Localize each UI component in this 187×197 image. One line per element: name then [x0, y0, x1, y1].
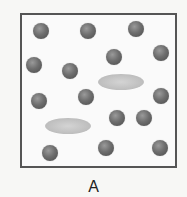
- particle-sphere: [136, 110, 152, 126]
- particle-sphere: [109, 110, 125, 126]
- particle-sphere: [106, 49, 122, 65]
- diagram-label: A: [0, 178, 187, 196]
- particle-sphere: [42, 145, 58, 161]
- particle-sphere: [80, 23, 96, 39]
- particle-sphere: [128, 21, 144, 37]
- particle-sphere: [33, 23, 49, 39]
- particle-sphere: [153, 45, 169, 61]
- particle-sphere: [31, 93, 47, 109]
- molecule-ellipse: [45, 118, 91, 134]
- particle-sphere: [153, 88, 169, 104]
- particle-sphere: [26, 57, 42, 73]
- molecule-ellipse: [98, 74, 144, 90]
- particle-sphere: [98, 140, 114, 156]
- particle-sphere: [78, 89, 94, 105]
- particle-sphere: [62, 63, 78, 79]
- particle-sphere: [152, 140, 168, 156]
